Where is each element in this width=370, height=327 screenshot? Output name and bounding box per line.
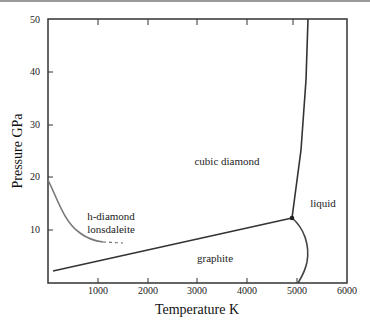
diamond-liquid-line <box>292 19 308 218</box>
region-label-graphite: graphite <box>197 252 233 264</box>
x-tick-label: 5000 <box>287 285 307 296</box>
y-tick-label: 20 <box>30 171 40 182</box>
y-tick-label: 40 <box>30 66 40 77</box>
region-label-liquid: liquid <box>310 197 336 209</box>
x-tick-label: 4000 <box>237 285 257 296</box>
graphite-liquid-line <box>292 218 308 283</box>
y-tick-label: 30 <box>30 119 40 130</box>
triple-point-marker <box>290 216 295 221</box>
phase-diagram: 1000 2000 3000 4000 5000 6000 10 20 30 4… <box>0 0 370 327</box>
y-axis-title: Pressure GPa <box>10 113 25 189</box>
x-ticks <box>98 19 297 283</box>
x-tick-label: 3000 <box>187 285 207 296</box>
x-axis-title: Temperature K <box>155 302 239 317</box>
y-tick-label: 50 <box>30 14 40 25</box>
x-tick-label: 2000 <box>138 285 158 296</box>
h-diamond-dashed-line <box>103 242 123 243</box>
y-tick-label: 10 <box>30 224 40 235</box>
region-label-cubic-diamond: cubic diamond <box>194 155 260 167</box>
x-tick-label: 1000 <box>88 285 108 296</box>
region-label-lonsdaleite: lonsdaleite <box>87 223 135 235</box>
region-label-h-diamond: h-diamond <box>87 210 135 222</box>
plot-frame <box>48 19 347 283</box>
x-tick-label: 6000 <box>337 285 357 296</box>
